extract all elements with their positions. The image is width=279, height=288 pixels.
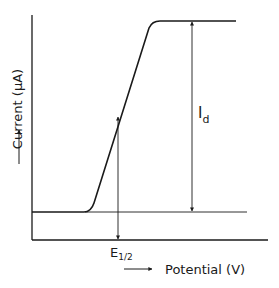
x-axis-label: Potential (V) (165, 262, 245, 277)
diffusion-current-label: Id (198, 104, 209, 126)
half-wave-potential-label: E1/2 (110, 245, 133, 262)
y-axis-label-group: Current (µA) (10, 69, 25, 149)
polarogram-figure: Id E1/2 Current (µA) Potential (V) (0, 0, 279, 288)
y-axis-label: Current (µA) (10, 69, 25, 149)
